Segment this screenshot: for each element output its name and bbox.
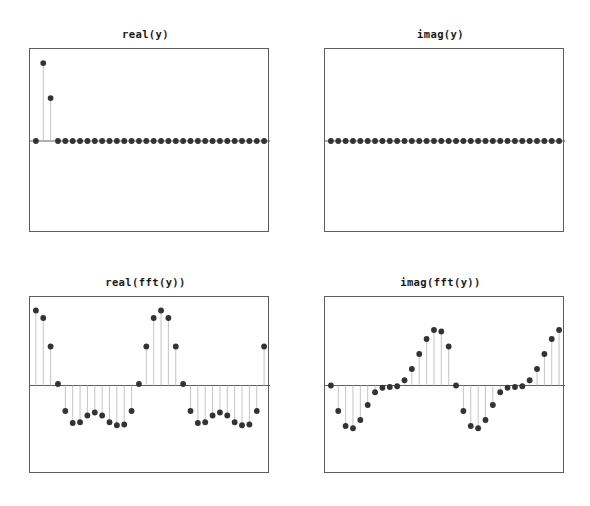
data-point: [549, 138, 555, 144]
data-point: [350, 425, 356, 431]
data-point: [224, 138, 230, 144]
plot-area-imag-y: [325, 49, 565, 233]
data-point: [490, 138, 496, 144]
plot-area-real-y: [30, 49, 270, 233]
data-point: [519, 383, 525, 389]
data-point: [394, 138, 400, 144]
data-point: [77, 138, 83, 144]
data-point: [166, 315, 172, 321]
data-point: [512, 384, 518, 390]
data-point: [210, 138, 216, 144]
data-point: [151, 315, 157, 321]
data-point: [107, 419, 113, 425]
data-point: [70, 138, 76, 144]
data-point: [239, 138, 245, 144]
stem-lines: [43, 63, 50, 141]
data-point: [48, 344, 54, 350]
data-point: [431, 327, 437, 333]
data-point: [114, 138, 120, 144]
data-point: [475, 138, 481, 144]
data-point: [328, 138, 334, 144]
data-point: [387, 384, 393, 390]
stem-lines: [36, 311, 264, 426]
data-point: [527, 377, 533, 383]
data-point: [173, 138, 179, 144]
data-point: [497, 138, 503, 144]
data-point: [365, 402, 371, 408]
data-point: [254, 408, 260, 414]
data-markers: [33, 60, 267, 144]
data-point: [195, 138, 201, 144]
data-point: [180, 381, 186, 387]
data-point: [92, 138, 98, 144]
data-point: [534, 138, 540, 144]
data-point: [40, 315, 46, 321]
plot-area-imag-fft-y: [325, 297, 565, 474]
panel-title-real-y: real(y): [8, 28, 283, 40]
data-point: [85, 138, 91, 144]
panel-imag-fft-y: imag(fft(y)): [303, 276, 578, 486]
data-point: [505, 385, 511, 391]
data-point: [350, 138, 356, 144]
data-point: [424, 138, 430, 144]
data-point: [541, 138, 547, 144]
data-point: [55, 381, 61, 387]
data-point: [424, 336, 430, 342]
axes-real-y: [29, 48, 269, 232]
data-point: [365, 138, 371, 144]
data-point: [483, 417, 489, 423]
data-point: [453, 383, 459, 389]
data-point: [158, 138, 164, 144]
data-point: [239, 422, 245, 428]
data-point: [77, 419, 83, 425]
data-point: [468, 423, 474, 429]
data-point: [40, 60, 46, 66]
data-point: [475, 425, 481, 431]
data-point: [416, 138, 422, 144]
data-point: [372, 138, 378, 144]
data-point: [556, 327, 562, 333]
data-point: [343, 423, 349, 429]
data-point: [343, 138, 349, 144]
data-point: [55, 138, 61, 144]
panel-title-imag-y: imag(y): [303, 28, 578, 40]
data-point: [541, 351, 547, 357]
data-point: [372, 389, 378, 395]
data-point: [446, 344, 452, 350]
data-point: [402, 377, 408, 383]
data-point: [188, 138, 194, 144]
data-point: [158, 308, 164, 314]
data-point: [202, 138, 208, 144]
data-point: [143, 344, 149, 350]
data-point: [556, 138, 562, 144]
data-point: [48, 95, 54, 101]
data-point: [461, 408, 467, 414]
data-point: [416, 351, 422, 357]
data-point: [380, 138, 386, 144]
data-point: [505, 138, 511, 144]
data-point: [166, 138, 172, 144]
panel-imag-y: imag(y): [303, 28, 578, 238]
panel-title-real-fft-y: real(fft(y)): [8, 276, 283, 288]
data-point: [136, 138, 142, 144]
data-markers: [328, 327, 562, 431]
axes-real-fft-y: [29, 296, 269, 473]
data-point: [151, 138, 157, 144]
data-point: [446, 138, 452, 144]
data-point: [335, 138, 341, 144]
data-point: [261, 138, 267, 144]
data-point: [519, 138, 525, 144]
data-point: [224, 413, 230, 419]
data-point: [107, 138, 113, 144]
data-point: [121, 138, 127, 144]
panel-title-imag-fft-y: imag(fft(y)): [303, 276, 578, 288]
data-point: [217, 138, 223, 144]
data-point: [254, 138, 260, 144]
data-point: [409, 366, 415, 372]
plot-area-real-fft-y: [30, 297, 270, 474]
data-point: [357, 138, 363, 144]
data-point: [438, 138, 444, 144]
data-point: [261, 344, 267, 350]
data-point: [173, 344, 179, 350]
data-point: [188, 408, 194, 414]
